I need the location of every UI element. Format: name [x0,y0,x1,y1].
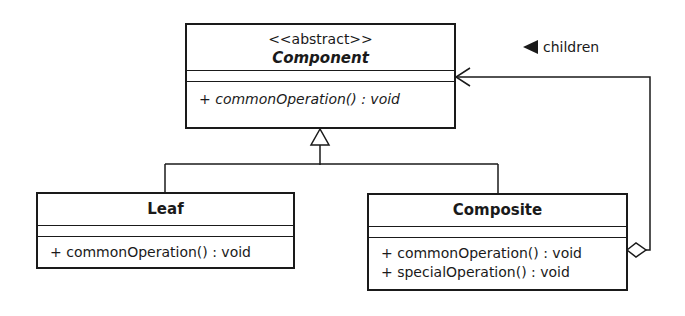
operation: + commonOperation() : void [50,243,293,262]
aggregation-diamond-icon [627,243,646,257]
class-component[interactable]: <<abstract>> Component + commonOperation… [185,23,456,129]
class-name: Composite [369,200,626,220]
class-composite[interactable]: Composite + commonOperation() : void + s… [367,193,628,291]
attributes-compartment [38,226,293,237]
attributes-compartment [187,71,454,82]
operations-compartment: + commonOperation() : void [187,82,454,109]
association-label: children [543,39,599,55]
class-leaf[interactable]: Leaf + commonOperation() : void [36,192,295,269]
class-name: Leaf [38,199,293,219]
generalization-arrow-icon [311,129,329,145]
attributes-compartment [369,227,626,238]
operation: + commonOperation() : void [199,90,454,109]
operation: + specialOperation() : void [381,263,626,282]
operations-compartment: + commonOperation() : void + specialOper… [369,238,626,282]
operation: + commonOperation() : void [381,244,626,263]
left-triangle-icon [523,40,538,54]
stereotype: <<abstract>> [187,25,454,48]
class-name: Component [187,48,454,68]
operations-compartment: + commonOperation() : void [38,237,293,262]
